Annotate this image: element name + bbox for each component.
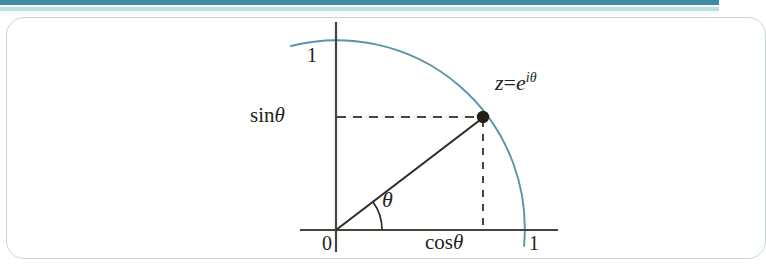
sin-function-text: sin bbox=[250, 103, 275, 127]
z-variable-text: z bbox=[495, 70, 504, 95]
unit-circle-arc bbox=[291, 40, 525, 246]
cos-theta-label: cosθ bbox=[425, 232, 463, 253]
y-axis-tick-label-one: 1 bbox=[307, 45, 317, 65]
theta-angle-arc bbox=[373, 202, 382, 230]
x-axis-tick-label-one: 1 bbox=[529, 233, 539, 253]
point-z-label: z=eiθ bbox=[495, 71, 537, 94]
sin-theta-label: sinθ bbox=[250, 105, 285, 126]
radius-segment bbox=[336, 120, 480, 230]
theta-angle-label: θ bbox=[382, 189, 393, 211]
sin-theta-symbol: θ bbox=[275, 103, 285, 127]
exponent-i-theta-text: iθ bbox=[526, 70, 537, 85]
exponential-base-text: e bbox=[516, 70, 526, 95]
cos-theta-symbol: θ bbox=[453, 230, 463, 254]
equals-sign: = bbox=[504, 70, 516, 95]
cos-function-text: cos bbox=[425, 230, 453, 254]
origin-label: 0 bbox=[322, 233, 332, 253]
point-z-marker bbox=[477, 111, 489, 123]
